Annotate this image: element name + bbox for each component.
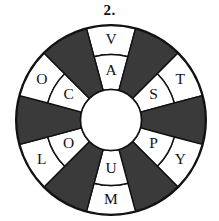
wheel-letter-outer: V: [105, 30, 117, 47]
wheel-letter-inner: U: [105, 159, 116, 176]
wheel-letter-outer: O: [36, 70, 47, 87]
wheel-letter-outer: T: [176, 70, 186, 87]
puzzle-wheel-figure: 2. VATSYPMULOOC: [0, 0, 219, 221]
figure-number-label: 2.: [0, 1, 219, 19]
wheel-letter-outer: M: [104, 190, 118, 207]
wheel-diagram: VATSYPMULOOC: [14, 23, 208, 217]
wheel-letter-inner: P: [149, 134, 158, 151]
wheel-hub: [81, 90, 142, 151]
wheel-letter-inner: O: [63, 134, 74, 151]
wheel-letter-outer: L: [37, 150, 46, 167]
wheel-letter-inner: A: [105, 61, 117, 78]
wheel-letter-outer: Y: [175, 150, 186, 167]
wheel-container: VATSYPMULOOC: [14, 23, 208, 217]
wheel-letter-inner: C: [63, 85, 73, 102]
wheel-letter-inner: S: [149, 85, 158, 102]
